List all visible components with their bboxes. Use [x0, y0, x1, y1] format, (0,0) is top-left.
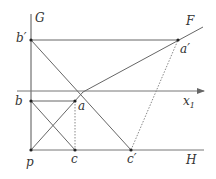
label-p: p [26, 155, 34, 169]
label-aprime: a′ [180, 42, 190, 56]
label-x1: x1 [183, 94, 195, 110]
label-H: H [185, 153, 197, 167]
label-b: b [15, 94, 23, 108]
label-a: a [78, 99, 85, 113]
label-bprime: b′ [16, 31, 27, 45]
dotted-cprime-aprime [131, 40, 178, 150]
point-p [29, 148, 32, 151]
point-b [29, 99, 32, 102]
point-bprime [29, 38, 32, 41]
geometry-diagram: G F b′ a′ b a x1 p c c′ H [0, 0, 216, 179]
label-F: F [185, 14, 195, 28]
line-F [83, 27, 203, 92]
point-a [73, 99, 76, 102]
label-c: c [71, 152, 78, 166]
diagram-canvas: G F b′ a′ b a x1 p c c′ H [0, 0, 216, 179]
label-G: G [35, 11, 45, 25]
label-cprime: c′ [127, 152, 137, 166]
